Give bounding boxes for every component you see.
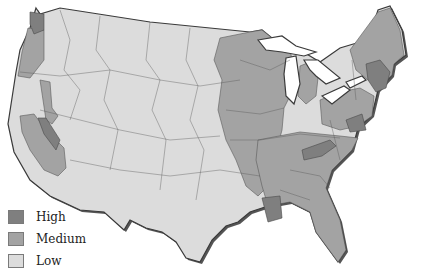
map-legend: High Medium Low — [8, 206, 86, 272]
legend-swatch-high — [8, 210, 24, 224]
legend-label-medium: Medium — [36, 232, 86, 246]
legend-swatch-medium — [8, 232, 24, 246]
legend-label-low: Low — [36, 254, 61, 268]
legend-item-medium: Medium — [8, 228, 86, 250]
legend-item-low: Low — [8, 250, 86, 272]
legend-swatch-low — [8, 254, 24, 268]
legend-label-high: High — [36, 210, 66, 224]
legend-item-high: High — [8, 206, 86, 228]
